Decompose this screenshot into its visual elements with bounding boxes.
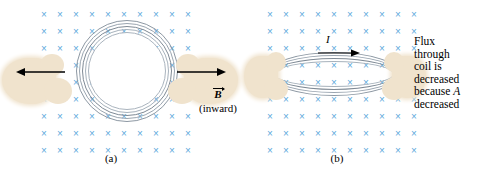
field-mark: × bbox=[132, 125, 148, 142]
caption-line: Flux bbox=[414, 35, 496, 48]
panel-label-b: (b) bbox=[322, 152, 352, 164]
field-mark: × bbox=[358, 125, 374, 142]
vector-arrow-overbar bbox=[213, 88, 224, 89]
knuckle bbox=[266, 52, 286, 72]
field-mark: × bbox=[68, 125, 84, 142]
field-mark: × bbox=[36, 6, 52, 23]
field-mark: × bbox=[294, 125, 310, 142]
caption-area-symbol: A bbox=[453, 85, 460, 97]
knuckle bbox=[384, 52, 404, 72]
flux-caption: Flux through coil is decreased because A… bbox=[414, 35, 496, 111]
field-mark: × bbox=[326, 6, 342, 23]
field-mark: × bbox=[342, 125, 358, 142]
field-mark: × bbox=[390, 125, 406, 142]
field-mark: × bbox=[278, 125, 294, 142]
field-mark: × bbox=[164, 125, 180, 142]
field-mark: × bbox=[100, 125, 116, 142]
field-mark: × bbox=[294, 142, 310, 159]
thumb bbox=[168, 78, 196, 104]
field-mark: × bbox=[262, 142, 278, 159]
field-mark: × bbox=[164, 142, 180, 159]
field-mark: × bbox=[278, 108, 294, 125]
field-mark: × bbox=[374, 108, 390, 125]
figure-root: ××××××××××××××××××××××××××××××××××××××××… bbox=[0, 0, 497, 181]
field-mark: × bbox=[358, 23, 374, 40]
field-mark: × bbox=[342, 23, 358, 40]
coil-circular-a bbox=[76, 20, 178, 122]
field-mark: × bbox=[132, 142, 148, 159]
field-mark: × bbox=[374, 23, 390, 40]
field-mark: × bbox=[278, 23, 294, 40]
field-mark: × bbox=[262, 6, 278, 23]
field-mark: × bbox=[406, 6, 422, 23]
caption-line-because: because A bbox=[414, 85, 496, 98]
field-mark: × bbox=[148, 142, 164, 159]
hand-left-b bbox=[244, 50, 288, 104]
field-mark: × bbox=[310, 6, 326, 23]
field-mark: × bbox=[52, 6, 68, 23]
field-mark: × bbox=[390, 142, 406, 159]
field-mark: × bbox=[36, 108, 52, 125]
field-mark: × bbox=[310, 125, 326, 142]
field-mark: × bbox=[180, 125, 196, 142]
pull-left-arrow bbox=[16, 66, 66, 78]
caption-line: decreased bbox=[414, 73, 496, 86]
field-mark: × bbox=[148, 125, 164, 142]
field-mark: × bbox=[262, 125, 278, 142]
field-mark: × bbox=[294, 6, 310, 23]
caption-line: coil is bbox=[414, 60, 496, 73]
field-mark: × bbox=[262, 23, 278, 40]
field-mark: × bbox=[52, 23, 68, 40]
field-mark: × bbox=[374, 6, 390, 23]
field-mark: × bbox=[294, 23, 310, 40]
field-mark: × bbox=[374, 142, 390, 159]
field-mark: × bbox=[294, 108, 310, 125]
field-mark: × bbox=[342, 6, 358, 23]
field-mark: × bbox=[36, 23, 52, 40]
field-mark: × bbox=[278, 6, 294, 23]
field-mark: × bbox=[358, 142, 374, 159]
field-mark: × bbox=[52, 108, 68, 125]
hand-left-a bbox=[0, 52, 72, 110]
caption-because-text: because bbox=[414, 85, 453, 97]
field-mark: × bbox=[406, 142, 422, 159]
field-mark: × bbox=[262, 108, 278, 125]
field-mark: × bbox=[390, 108, 406, 125]
magnetic-field-vector-label: B bbox=[196, 88, 240, 100]
field-mark: × bbox=[390, 23, 406, 40]
field-mark: × bbox=[326, 108, 342, 125]
current-direction-arrow bbox=[318, 48, 360, 58]
field-mark: × bbox=[84, 125, 100, 142]
field-mark: × bbox=[342, 108, 358, 125]
field-mark: × bbox=[406, 125, 422, 142]
field-mark: × bbox=[68, 142, 84, 159]
field-mark: × bbox=[52, 125, 68, 142]
thumb bbox=[382, 78, 406, 100]
field-mark: × bbox=[52, 142, 68, 159]
coil-turn bbox=[274, 61, 394, 87]
current-label: I bbox=[326, 33, 330, 45]
field-mark: × bbox=[326, 125, 342, 142]
field-mark: × bbox=[310, 108, 326, 125]
field-mark: × bbox=[278, 142, 294, 159]
caption-line: decreased bbox=[414, 98, 496, 111]
field-mark: × bbox=[36, 125, 52, 142]
coil-interior bbox=[88, 32, 166, 110]
field-direction-label: (inward) bbox=[190, 102, 246, 114]
field-mark: × bbox=[180, 6, 196, 23]
field-mark: × bbox=[358, 6, 374, 23]
field-mark: × bbox=[390, 6, 406, 23]
field-mark: × bbox=[36, 142, 52, 159]
panel-label-a: (a) bbox=[96, 152, 126, 164]
field-mark: × bbox=[180, 23, 196, 40]
field-mark: × bbox=[180, 142, 196, 159]
field-mark: × bbox=[358, 108, 374, 125]
field-mark: × bbox=[310, 23, 326, 40]
caption-line: through bbox=[414, 48, 496, 61]
thumb bbox=[264, 78, 288, 100]
field-mark: × bbox=[374, 125, 390, 142]
pull-right-arrow bbox=[176, 66, 226, 78]
thumb bbox=[44, 78, 72, 104]
field-mark: × bbox=[116, 125, 132, 142]
